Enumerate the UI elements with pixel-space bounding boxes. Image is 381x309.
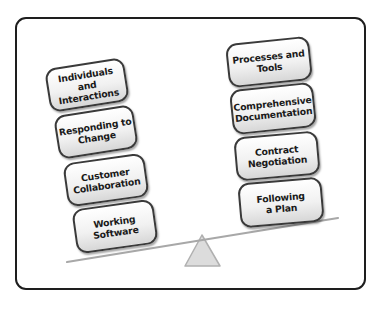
block-processes-and-tools: Processes and Tools [225,36,313,89]
seesaw-graphic [0,0,381,309]
block-following-a-plan: Following a Plan [237,176,325,228]
block-comprehensive-documentation: Comprehensive Documentation [229,82,317,136]
block-contract-negotiation: Contract Negotiation [233,130,321,181]
